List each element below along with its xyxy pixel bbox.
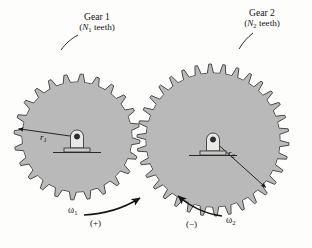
gear-1-radius-label: r1: [40, 132, 47, 142]
gear-2-leader-line: [239, 33, 253, 49]
omega-1-direction-arrow: [84, 198, 140, 215]
gear-1-teeth-label: (N1 teeth): [60, 22, 134, 33]
omega-1-label: ω1: [68, 205, 77, 216]
gear-2-label: Gear 2 (N2 teeth): [222, 7, 302, 29]
gear-2-name: Gear 2: [249, 7, 275, 18]
gear-2-radius-label: r2: [228, 148, 235, 158]
gear-diagram-svg: [0, 0, 312, 248]
omega-2-sign-label: (−): [186, 219, 197, 229]
gear-1-name: Gear 1: [84, 11, 110, 22]
gear-1-shaft-hole: [74, 134, 79, 139]
gear-2-shaft-hole: [210, 137, 215, 142]
gear-1-leader-line: [61, 35, 78, 50]
omega-2-label: ω2: [226, 215, 235, 226]
gear-2-teeth-label: (N2 teeth): [222, 18, 302, 29]
omega-1-sign-label: (+): [90, 218, 101, 228]
gear-1-label: Gear 1 (N1 teeth): [60, 11, 134, 33]
gear-1-bearing-plate: [64, 148, 90, 152]
gear-diagram-figure: Gear 1 (N1 teeth) Gear 2 (N2 teeth) r1 r…: [0, 0, 312, 248]
gear-2-bearing-plate: [200, 151, 226, 155]
